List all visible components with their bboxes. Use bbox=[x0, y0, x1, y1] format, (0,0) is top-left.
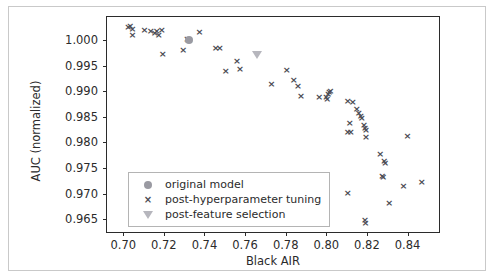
data-point-x: × bbox=[344, 188, 352, 198]
data-point-x: × bbox=[283, 65, 291, 75]
y-tick bbox=[103, 219, 107, 220]
y-tick bbox=[103, 168, 107, 169]
data-point-x: × bbox=[326, 86, 334, 96]
data-point-x: × bbox=[378, 171, 386, 181]
data-point-x: × bbox=[380, 156, 388, 166]
data-point-x: × bbox=[128, 30, 136, 40]
x-tick-label: 0.82 bbox=[354, 238, 380, 252]
y-tick-label: 0.985 bbox=[65, 110, 98, 124]
data-point-x: × bbox=[128, 24, 136, 34]
x-tick bbox=[326, 232, 327, 236]
x-tick-label: 0.72 bbox=[151, 238, 177, 252]
data-point-x: × bbox=[362, 219, 370, 229]
data-point-x: × bbox=[353, 104, 361, 114]
data-point-triangle bbox=[252, 51, 262, 59]
triangle-down-marker-icon bbox=[135, 211, 161, 219]
data-point-x: × bbox=[362, 125, 370, 135]
data-point-x: × bbox=[385, 198, 393, 208]
x-tick-label: 0.70 bbox=[110, 238, 136, 252]
data-point-x: × bbox=[222, 66, 230, 76]
data-point-x: × bbox=[362, 133, 370, 143]
y-tick-label: 0.995 bbox=[65, 59, 98, 73]
x-tick bbox=[164, 232, 165, 236]
legend-label-post-feature-selection: post-feature selection bbox=[161, 208, 285, 221]
data-point-x: × bbox=[236, 64, 244, 74]
legend-box: original model × post-hyperparameter tun… bbox=[128, 172, 330, 227]
y-tick bbox=[103, 91, 107, 92]
data-point-x: × bbox=[399, 182, 407, 192]
data-point-x: × bbox=[233, 56, 241, 66]
data-point-x: × bbox=[155, 30, 163, 40]
y-tick-label: 0.980 bbox=[65, 135, 98, 149]
data-point-x: × bbox=[151, 29, 159, 39]
data-point-x: × bbox=[361, 215, 369, 225]
data-point-x: × bbox=[267, 79, 275, 89]
data-point-x: × bbox=[126, 21, 134, 31]
x-tick bbox=[286, 232, 287, 236]
data-point-x: × bbox=[153, 26, 161, 36]
y-tick-label: 0.975 bbox=[65, 161, 98, 175]
data-point-x: × bbox=[344, 97, 352, 107]
data-point-x: × bbox=[297, 92, 305, 102]
data-point-x: × bbox=[212, 43, 220, 53]
x-marker-icon: × bbox=[135, 194, 161, 205]
legend-item-post-feature-selection: post-feature selection bbox=[135, 207, 321, 222]
data-point-x: × bbox=[315, 92, 323, 102]
data-point-x: × bbox=[361, 123, 369, 133]
y-tick bbox=[103, 117, 107, 118]
data-point-x: × bbox=[185, 35, 193, 45]
legend-item-post-hyperparameter-tuning: × post-hyperparameter tuning bbox=[135, 192, 321, 207]
data-point-x: × bbox=[357, 111, 365, 121]
data-point-x: × bbox=[183, 34, 191, 44]
data-point-x: × bbox=[179, 46, 187, 56]
x-tick-label: 0.74 bbox=[192, 238, 218, 252]
data-point-x: × bbox=[325, 88, 333, 98]
legend-label-original-model: original model bbox=[161, 178, 244, 191]
data-point-x: × bbox=[418, 177, 426, 187]
data-point-x: × bbox=[358, 113, 366, 123]
data-point-x: × bbox=[404, 132, 412, 142]
y-tick bbox=[103, 194, 107, 195]
data-point-x: × bbox=[124, 22, 132, 32]
data-point-x: × bbox=[379, 172, 387, 182]
figure-root: ××××××××××××××××××××××××××××××××××××××××… bbox=[0, 0, 494, 279]
x-tick-label: 0.84 bbox=[395, 238, 421, 252]
data-point-x: × bbox=[159, 49, 167, 59]
y-tick bbox=[103, 66, 107, 67]
x-tick bbox=[245, 232, 246, 236]
x-axis-label: Black AIR bbox=[106, 254, 440, 268]
data-point-x: × bbox=[376, 149, 384, 159]
x-tick bbox=[408, 232, 409, 236]
data-point-x: × bbox=[294, 81, 302, 91]
data-point-x: × bbox=[195, 28, 203, 38]
x-tick bbox=[123, 232, 124, 236]
data-point-x: × bbox=[355, 108, 363, 118]
y-tick-label: 1.000 bbox=[65, 33, 98, 47]
data-point-x: × bbox=[346, 118, 354, 128]
data-point-x: × bbox=[147, 27, 155, 37]
caption-strip bbox=[8, 272, 486, 279]
data-point-x: × bbox=[360, 120, 368, 130]
x-tick-label: 0.76 bbox=[232, 238, 258, 252]
x-tick-label: 0.80 bbox=[313, 238, 339, 252]
data-point-x: × bbox=[347, 127, 355, 137]
data-point-x: × bbox=[158, 25, 166, 35]
data-point-x: × bbox=[344, 127, 352, 137]
data-point-x: × bbox=[290, 76, 298, 86]
legend-label-post-hyperparameter-tuning: post-hyperparameter tuning bbox=[161, 193, 321, 206]
y-tick-label: 0.965 bbox=[65, 212, 98, 226]
data-point-x: × bbox=[322, 93, 330, 103]
data-point-x: × bbox=[184, 35, 192, 45]
circle-marker-icon bbox=[135, 181, 161, 189]
data-point-x: × bbox=[141, 25, 149, 35]
x-tick-label: 0.78 bbox=[273, 238, 299, 252]
y-tick-label: 0.990 bbox=[65, 84, 98, 98]
y-axis-label: AUC (normalized) bbox=[29, 51, 43, 211]
data-point-circle bbox=[185, 36, 193, 44]
plot-axes: ××××××××××××××××××××××××××××××××××××××××… bbox=[106, 16, 440, 233]
data-point-x: × bbox=[216, 43, 224, 53]
y-tick-label: 0.970 bbox=[65, 187, 98, 201]
legend-item-original-model: original model bbox=[135, 177, 321, 192]
x-tick bbox=[367, 232, 368, 236]
y-tick bbox=[103, 40, 107, 41]
